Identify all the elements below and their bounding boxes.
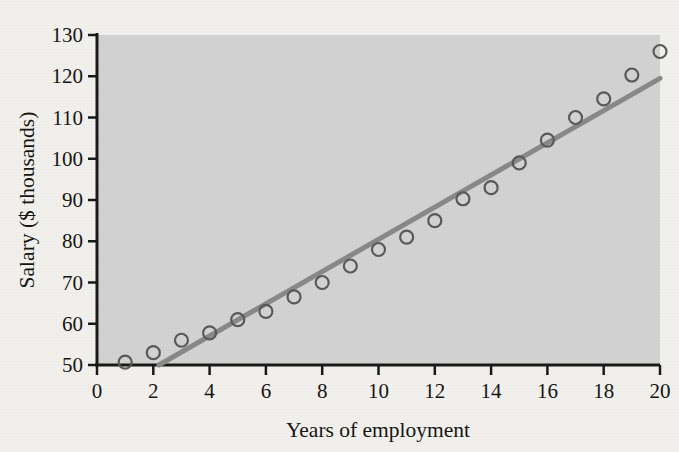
x-tick-label-10: 10: [368, 379, 389, 403]
y-axis-title: Salary ($ thousands): [15, 112, 39, 289]
x-tick-label-14: 14: [481, 379, 503, 403]
y-tick-label-70: 70: [62, 271, 83, 295]
x-tick-label-16: 16: [537, 379, 558, 403]
y-tick-label-110: 110: [52, 106, 83, 130]
x-tick-label-4: 4: [204, 379, 215, 403]
scatter-plot-figure: 5060708090100110120130 02468101214161820…: [0, 0, 679, 452]
x-tick-label-18: 18: [593, 379, 614, 403]
x-tick-label-8: 8: [317, 379, 328, 403]
y-tick-label-120: 120: [52, 64, 84, 88]
chart-canvas: 5060708090100110120130 02468101214161820…: [0, 0, 679, 452]
y-tick-label-80: 80: [62, 229, 83, 253]
x-axis-title: Years of employment: [286, 418, 470, 442]
x-tick-label-6: 6: [261, 379, 272, 403]
x-tick-label-2: 2: [148, 379, 159, 403]
y-tick-label-100: 100: [52, 147, 84, 171]
y-tick-label-60: 60: [62, 312, 83, 336]
y-tick-label-130: 130: [52, 23, 84, 47]
x-tick-label-0: 0: [92, 379, 103, 403]
x-tick-label-20: 20: [650, 379, 671, 403]
plot-area-background: [97, 35, 660, 365]
y-tick-label-50: 50: [62, 353, 83, 377]
y-tick-label-90: 90: [62, 188, 83, 212]
x-tick-label-12: 12: [424, 379, 445, 403]
